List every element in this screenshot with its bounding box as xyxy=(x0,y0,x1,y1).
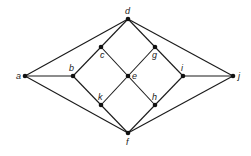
edge-a-f xyxy=(25,76,128,133)
node-a xyxy=(23,74,28,79)
edge-j-f xyxy=(128,76,233,133)
graph-diagram: abcdegijkhf xyxy=(0,0,251,156)
node-label-d: d xyxy=(125,6,131,16)
node-g xyxy=(153,45,158,50)
node-k xyxy=(99,103,104,108)
node-label-g: g xyxy=(152,50,157,60)
node-label-b: b xyxy=(69,63,74,73)
edge-a-d xyxy=(25,19,128,76)
node-f xyxy=(126,131,131,136)
node-b xyxy=(71,74,76,79)
node-label-j: j xyxy=(237,71,241,81)
edge-e-k xyxy=(101,76,128,105)
edge-h-f xyxy=(128,105,155,133)
node-h xyxy=(153,103,158,108)
edge-k-f xyxy=(101,105,128,133)
node-label-c: c xyxy=(100,50,105,60)
node-label-f: f xyxy=(126,137,130,147)
node-label-k: k xyxy=(98,92,103,102)
node-e xyxy=(126,74,131,79)
edge-c-e xyxy=(101,47,128,76)
node-d xyxy=(126,17,131,22)
node-i xyxy=(181,74,186,79)
edge-h-i xyxy=(155,76,183,105)
edge-b-k xyxy=(73,76,101,105)
node-c xyxy=(99,45,104,50)
node-label-e: e xyxy=(132,71,137,81)
edge-c-d xyxy=(101,19,128,47)
edge-d-g xyxy=(128,19,155,47)
edge-b-c xyxy=(73,47,101,76)
node-label-h: h xyxy=(152,92,157,102)
edge-g-i xyxy=(155,47,183,76)
node-j xyxy=(231,74,236,79)
node-label-a: a xyxy=(16,71,21,81)
node-label-i: i xyxy=(181,63,184,73)
